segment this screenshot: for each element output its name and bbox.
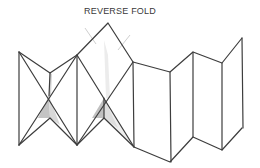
fold-lines bbox=[19, 23, 243, 162]
reverse-fold-diagram bbox=[0, 0, 260, 168]
